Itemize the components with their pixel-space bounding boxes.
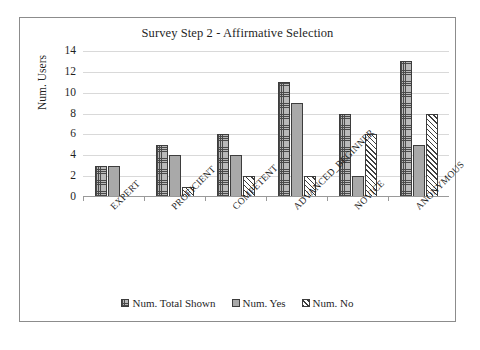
y-tick-label: 14 xyxy=(65,45,77,57)
legend-swatch-icon xyxy=(232,299,240,307)
chart-figure: Survey Step 2 - Affirmative Selection Nu… xyxy=(19,17,456,322)
legend-label: Num. Total Shown xyxy=(132,297,215,309)
bar xyxy=(400,61,412,197)
legend-item[interactable]: Num. Total Shown xyxy=(121,297,215,309)
bar xyxy=(108,166,120,197)
bar xyxy=(169,155,181,197)
legend-item[interactable]: Num. Yes xyxy=(232,297,286,309)
bar xyxy=(278,82,290,197)
bar-group xyxy=(205,51,266,197)
bar xyxy=(230,155,242,197)
bar-group xyxy=(83,51,144,197)
bar xyxy=(413,145,425,197)
bar-group xyxy=(388,51,449,197)
y-tick-label: 12 xyxy=(65,66,77,78)
x-tick-mark xyxy=(205,197,206,201)
y-tick-label: 6 xyxy=(70,129,76,141)
bar-group xyxy=(266,51,327,197)
x-tick-mark xyxy=(327,197,328,201)
legend-label: Num. Yes xyxy=(243,297,286,309)
bar xyxy=(217,134,229,197)
bar xyxy=(156,145,168,197)
legend-swatch-icon xyxy=(302,299,310,307)
bar-group xyxy=(327,51,388,197)
chart-legend: Num. Total ShownNum. YesNum. No xyxy=(20,297,455,309)
y-tick-label: 4 xyxy=(70,150,76,162)
legend-swatch-icon xyxy=(121,299,129,307)
chart-title: Survey Step 2 - Affirmative Selection xyxy=(20,26,455,41)
bar xyxy=(291,103,303,197)
x-tick-mark xyxy=(83,197,84,201)
y-tick-label: 10 xyxy=(65,87,77,99)
x-tick-mark xyxy=(266,197,267,201)
x-tick-mark xyxy=(388,197,389,201)
y-tick-label: 0 xyxy=(70,191,76,203)
y-tick-label: 8 xyxy=(70,108,76,120)
x-tick-mark xyxy=(144,197,145,201)
bar-group xyxy=(144,51,205,197)
x-axis-line xyxy=(83,196,449,197)
bar xyxy=(95,166,107,197)
legend-item[interactable]: Num. No xyxy=(302,297,354,309)
y-axis-title: Num. Users xyxy=(36,55,48,110)
y-tick-label: 2 xyxy=(70,170,76,182)
legend-label: Num. No xyxy=(313,297,354,309)
